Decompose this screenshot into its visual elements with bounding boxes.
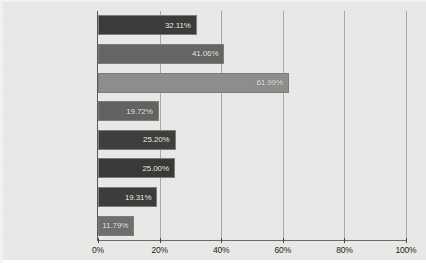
bar-steps-taken[interactable]: 61.99% xyxy=(98,73,289,93)
x-tick-mark xyxy=(406,238,407,243)
bar-row: 19.72%Speed xyxy=(98,101,406,121)
bar-value-label: 25.20% xyxy=(143,135,175,144)
bar-row: 61.99%Steps taken xyxy=(98,73,406,93)
bar-value-label: 25.00% xyxy=(142,164,174,173)
bar-row: 19.31%Food intake xyxy=(98,187,406,207)
bar-speed[interactable]: 19.72% xyxy=(98,101,159,121)
bar-value-label: 41.06% xyxy=(192,49,224,58)
x-tick-label: 80% xyxy=(336,245,352,255)
bar-value-label: 19.72% xyxy=(126,107,158,116)
x-axis-line xyxy=(97,240,406,241)
bar-value-label: 11.79% xyxy=(102,221,133,230)
bar-row: 32.11%Calories burnt xyxy=(98,15,406,35)
bar-value-label: 61.99% xyxy=(256,78,288,87)
x-tick-mark xyxy=(98,238,99,243)
gridline-100 xyxy=(406,11,407,240)
bar-row: 25.00%Hours slept xyxy=(98,158,406,178)
x-tick-label: 20% xyxy=(151,245,167,255)
x-tick-label: 0% xyxy=(92,245,104,255)
bar-food-intake[interactable]: 19.31% xyxy=(98,187,157,207)
x-tick-mark xyxy=(344,238,345,243)
x-axis: 0%20%40%60%80%100% xyxy=(98,243,406,261)
bar-chart: 32.11%Calories burnt41.06%Distance61.99%… xyxy=(0,0,426,263)
bar-calories-burnt[interactable]: 32.11% xyxy=(98,15,197,35)
bar-heart-rate[interactable]: 25.20% xyxy=(98,130,176,150)
bar-series: 32.11%Calories burnt41.06%Distance61.99%… xyxy=(98,11,406,240)
x-tick-mark xyxy=(221,238,222,243)
bar-row: 41.06%Distance xyxy=(98,44,406,64)
x-tick-label: 60% xyxy=(275,245,291,255)
bar-row: 11.79%Other (Please specify) xyxy=(98,216,406,236)
x-tick-mark xyxy=(160,238,161,243)
bar-other-please-specify[interactable]: 11.79% xyxy=(98,216,134,236)
bar-value-label: 19.31% xyxy=(125,193,157,202)
plot-area: 32.11%Calories burnt41.06%Distance61.99%… xyxy=(98,11,406,240)
x-tick-label: 100% xyxy=(396,245,417,255)
bar-row: 25.20%Heart rate xyxy=(98,130,406,150)
bar-distance[interactable]: 41.06% xyxy=(98,44,224,64)
x-tick-mark xyxy=(283,238,284,243)
x-tick-label: 40% xyxy=(213,245,229,255)
bar-value-label: 32.11% xyxy=(165,21,196,30)
bar-hours-slept[interactable]: 25.00% xyxy=(98,158,175,178)
